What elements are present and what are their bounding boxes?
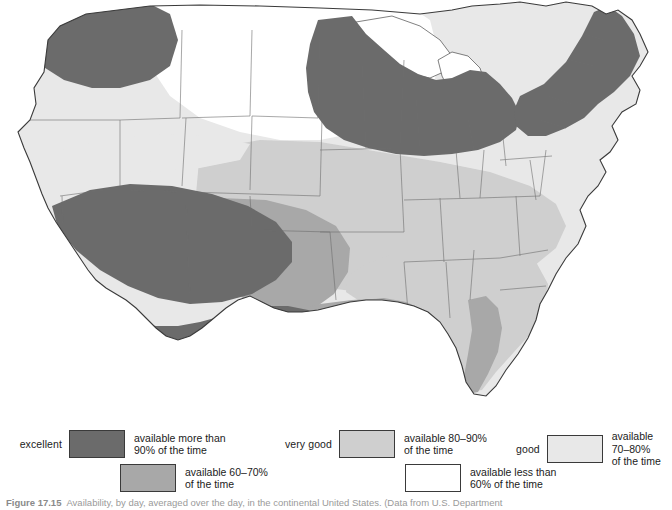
- figure-number: Figure 17.15: [6, 497, 61, 508]
- figure-caption-text: Availability, by day, averaged over the …: [66, 497, 502, 508]
- legend-item-excellent: excellent available more than 90% of the…: [6, 430, 226, 458]
- legend-rating-good: good: [516, 443, 540, 455]
- legend-description-poor: available less than 60% of the time: [470, 466, 556, 491]
- legend-rating-very-good: very good: [274, 438, 332, 450]
- figure-root: excellent available more than 90% of the…: [0, 0, 672, 510]
- legend-description-fair: available 60–70% of the time: [185, 466, 268, 491]
- legend-description-very-good: available 80–90% of the time: [404, 432, 487, 457]
- legend-swatch-excellent: [69, 430, 125, 458]
- us-availability-map: [0, 0, 672, 420]
- legend: excellent available more than 90% of the…: [0, 424, 672, 492]
- legend-swatch-poor: [405, 464, 461, 492]
- legend-swatch-fair: [120, 464, 176, 492]
- legend-item-good: good available 70–80% of the time: [516, 430, 672, 468]
- legend-item-poor: available less than 60% of the time: [405, 464, 556, 492]
- legend-rating-excellent: excellent: [6, 438, 62, 450]
- map-region-layer: [0, 0, 672, 420]
- map-region-southeast-verygood: [346, 244, 548, 392]
- legend-swatch-very-good: [339, 430, 395, 458]
- legend-item-fair: available 60–70% of the time: [120, 464, 268, 492]
- legend-item-very-good: very good available 80–90% of the time: [274, 430, 487, 458]
- legend-description-good: available 70–80% of the time: [612, 430, 672, 468]
- figure-caption: Figure 17.15Availability, by day, averag…: [6, 497, 666, 508]
- legend-swatch-good: [547, 435, 603, 463]
- map-panel: [0, 0, 672, 420]
- legend-description-excellent: available more than 90% of the time: [134, 432, 226, 457]
